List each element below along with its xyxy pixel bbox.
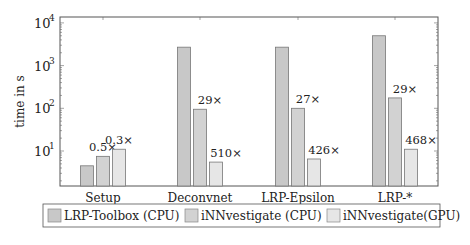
bar-annotation: 468× [405,133,437,147]
x-tick-label: LRP-Epsilon [261,191,335,205]
bar-annotation: 510× [210,146,242,160]
legend-swatch [48,209,61,222]
bar [308,159,321,186]
chart-svg: 101102103104time in sSetup0.5×0.3×Deconv… [0,0,470,245]
bar [389,98,402,186]
bar-annotation: 0.3× [105,133,133,147]
bar [405,149,418,186]
bar-annotation: 29× [393,82,417,96]
bar [210,162,223,186]
x-tick-label: Setup [85,191,121,205]
bar [81,166,94,186]
bar [373,36,386,186]
legend: LRP-Toolbox (CPU)iNNvestigate (CPU)iNNve… [43,204,460,227]
bar [97,156,110,186]
bar [292,108,305,186]
bar-chart: 101102103104time in sSetup0.5×0.3×Deconv… [0,0,470,245]
x-tick-label: Deconvnet [168,191,233,205]
bar-annotation: 29× [198,93,222,107]
legend-label: iNNvestigate(GPU) [343,209,460,223]
legend-label: LRP-Toolbox (CPU) [64,209,179,223]
bar [194,109,207,186]
x-tick-label: LRP-* [378,191,412,205]
bar [113,149,126,186]
y-tick-exponent: 4 [49,13,55,23]
y-tick-exponent: 2 [49,98,55,108]
bar-annotation: 426× [308,143,340,157]
y-tick-exponent: 1 [49,141,55,151]
bar [276,47,289,186]
legend-label: iNNvestigate (CPU) [201,209,322,223]
bar [178,47,191,186]
y-tick-exponent: 3 [49,56,55,66]
legend-swatch [185,209,198,222]
legend-swatch [327,209,340,222]
y-axis-label: time in s [13,75,27,128]
bar-annotation: 27× [296,92,320,106]
